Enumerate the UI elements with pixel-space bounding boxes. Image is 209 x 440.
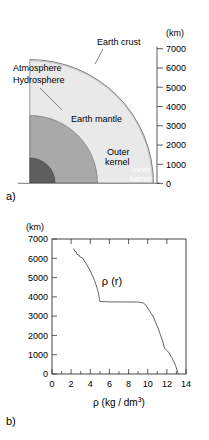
y-tick-1000: 1000 bbox=[28, 350, 48, 360]
x-tick-12: 12 bbox=[162, 379, 172, 389]
radial-tick-2000: 2000 bbox=[166, 140, 186, 150]
inner-kernel-label-line2: kernel bbox=[130, 174, 152, 183]
x-axis-title: ρ (kg / dm3) bbox=[93, 396, 145, 408]
below-baseline-mask bbox=[0, 183, 209, 212]
panel-a-earth-cross-section: (km) 7000 6000 5000 4000 3000 2000 1000 … bbox=[0, 0, 209, 212]
earth-crust-leader-line bbox=[95, 49, 103, 64]
x-axis-title-end: ) bbox=[142, 397, 145, 408]
panel-b-label: b) bbox=[6, 415, 16, 427]
plot-frame bbox=[52, 239, 186, 374]
radial-tick-3000: 3000 bbox=[166, 121, 186, 131]
x-tick-0: 0 bbox=[49, 379, 54, 389]
curve-annotation-label: ρ (r) bbox=[102, 275, 122, 287]
y-axis-ticks bbox=[52, 239, 57, 374]
atmosphere-label: Atmosphere bbox=[13, 63, 62, 73]
hydrosphere-label: Hydrosphere bbox=[13, 75, 65, 85]
y-tick-6000: 6000 bbox=[28, 254, 48, 264]
density-profile-chart: (km) 7000 6000 5000 4000 3000 2000 1000 … bbox=[0, 212, 209, 440]
x-tick-6: 6 bbox=[107, 379, 112, 389]
x-tick-8: 8 bbox=[126, 379, 131, 389]
density-curve bbox=[74, 249, 178, 374]
panel-b-density-profile: (km) 7000 6000 5000 4000 3000 2000 1000 … bbox=[0, 212, 209, 440]
x-tick-4: 4 bbox=[88, 379, 93, 389]
inner-kernel-label-line1: Inner bbox=[132, 165, 151, 174]
y-tick-7000: 7000 bbox=[28, 234, 48, 244]
earth-mantle-label: Earth mantle bbox=[71, 114, 122, 124]
radial-tick-5000: 5000 bbox=[166, 83, 186, 93]
radial-tick-0: 0 bbox=[166, 179, 171, 189]
x-tick-14: 14 bbox=[181, 379, 191, 389]
radial-axis-ticks bbox=[157, 49, 163, 184]
outer-kernel-label-line1: Outer bbox=[107, 147, 130, 157]
y-axis-unit: (km) bbox=[26, 222, 44, 232]
radial-tick-7000: 7000 bbox=[166, 44, 186, 54]
y-tick-2000: 2000 bbox=[28, 331, 48, 341]
x-axis-title-base: ρ (kg / dm bbox=[93, 397, 138, 408]
radial-axis-unit: (km) bbox=[166, 28, 184, 38]
radial-tick-6000: 6000 bbox=[166, 63, 186, 73]
panel-a-label: a) bbox=[6, 190, 16, 202]
x-axis-ticks bbox=[52, 239, 186, 374]
earth-crust-label: Earth crust bbox=[97, 37, 141, 47]
outer-kernel-label-line2: kernel bbox=[105, 157, 130, 167]
radial-tick-4000: 4000 bbox=[166, 102, 186, 112]
y-tick-5000: 5000 bbox=[28, 273, 48, 283]
x-tick-2: 2 bbox=[69, 379, 74, 389]
y-tick-3000: 3000 bbox=[28, 311, 48, 321]
earth-structure-diagram: (km) 7000 6000 5000 4000 3000 2000 1000 … bbox=[0, 0, 209, 212]
y-tick-0: 0 bbox=[43, 369, 48, 379]
radial-tick-1000: 1000 bbox=[166, 160, 186, 170]
y-tick-4000: 4000 bbox=[28, 292, 48, 302]
x-tick-10: 10 bbox=[143, 379, 153, 389]
